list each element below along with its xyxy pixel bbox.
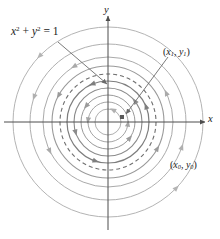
orbit-direction-arrow-icon — [46, 147, 51, 154]
leader-lines-group — [58, 42, 168, 114]
orbit-direction-arrow-icon — [72, 129, 77, 136]
phase-portrait-figure: x2 + y2 = 1 y x (x1, y1) (x0, y0) — [0, 0, 220, 239]
orbit-direction-arrow-icon — [154, 145, 159, 152]
paren-close: ) — [193, 159, 196, 170]
orbit-direction-arrow-icon — [86, 117, 91, 124]
state-point-marker — [120, 115, 124, 119]
y-axis-label: y — [104, 5, 109, 16]
orbit-direction-arrow-icon — [125, 120, 130, 127]
orbit-direction-arrow-icon — [178, 144, 183, 151]
orbit-direction-arrow-icon — [33, 93, 38, 100]
orbit-direction-arrow-icon — [57, 92, 62, 99]
x-axis-label: x — [208, 114, 213, 125]
orbit-direction-arrow-icon — [144, 103, 149, 110]
state-markers-group — [120, 115, 124, 119]
point-x1-y1-label: (x1, y1) — [163, 47, 190, 57]
orbit-direction-arrow-icon — [165, 90, 170, 97]
orbit-direction-arrow-icon — [89, 81, 96, 86]
equation-equals-one: = 1 — [41, 25, 59, 37]
equation-plus: + — [20, 25, 32, 37]
unit-circle-equation-label: x2 + y2 = 1 — [11, 26, 59, 38]
paren-close: ) — [186, 46, 189, 57]
point-x0-y0-label: (x0, y0) — [170, 160, 197, 170]
orbit-direction-arrow-icon — [71, 63, 78, 68]
orbit-direction-arrow-icon — [92, 158, 99, 163]
orbit-direction-arrow-icon — [110, 108, 117, 113]
